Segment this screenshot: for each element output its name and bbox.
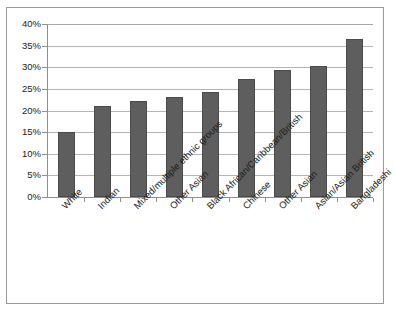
plot-area (48, 24, 373, 197)
y-axis-tick-labels: 40%35%30%25%20%15%10%5%0% (7, 8, 41, 303)
x-axis-tick (84, 198, 85, 202)
x-axis-tick (192, 198, 193, 202)
y-axis-tick-label: 15% (7, 127, 41, 137)
bar (166, 97, 183, 197)
bar (94, 106, 111, 197)
gridline (48, 24, 373, 25)
y-axis-tick (42, 67, 47, 68)
y-axis-tick-label: 40% (7, 19, 41, 29)
y-axis-tick-label: 0% (7, 192, 41, 202)
x-axis-tick (301, 198, 302, 202)
y-axis-tick (42, 46, 47, 47)
chart-frame: 40%35%30%25%20%15%10%5%0% WhiteIndianMix… (6, 7, 384, 304)
y-axis-tick (42, 154, 47, 155)
y-axis-tick (42, 89, 47, 90)
y-axis-tick-label: 35% (7, 41, 41, 51)
x-axis-tick (229, 198, 230, 202)
y-axis-tick (42, 175, 47, 176)
bar (130, 101, 147, 197)
y-axis-tick (42, 197, 47, 198)
x-axis-tick (120, 198, 121, 202)
y-axis-tick-label: 5% (7, 170, 41, 180)
y-axis-tick-label: 25% (7, 84, 41, 94)
y-axis-tick-label: 10% (7, 149, 41, 159)
x-axis-tick (156, 198, 157, 202)
x-axis-tick (373, 198, 374, 202)
y-axis-tick (42, 24, 47, 25)
bar (58, 132, 75, 197)
y-axis-tick-label: 30% (7, 62, 41, 72)
gridline (48, 46, 373, 47)
x-axis-tick (265, 198, 266, 202)
x-axis-tick (337, 198, 338, 202)
y-axis-tick-label: 20% (7, 106, 41, 116)
y-axis-tick (42, 132, 47, 133)
y-axis-tick (42, 111, 47, 112)
